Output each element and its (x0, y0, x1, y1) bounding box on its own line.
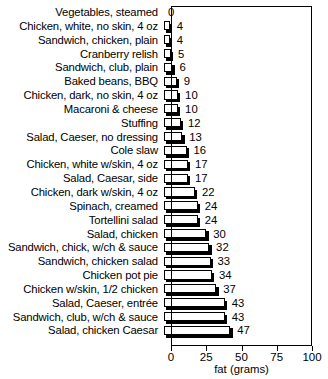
chart-row: Stuffing12 (0, 117, 328, 131)
chart-row: Salad, chicken Caesar47 (0, 324, 328, 338)
bar (164, 118, 181, 128)
bar-cell: 17 (164, 172, 328, 186)
bar-value-label: 5 (178, 48, 184, 62)
bar-cell: 12 (164, 117, 328, 131)
bar (164, 326, 230, 336)
bar-cell: 32 (164, 241, 328, 255)
bar-value-label: 9 (184, 75, 190, 89)
x-axis-tick (242, 346, 243, 351)
bar-cell: 5 (164, 48, 328, 62)
bar (164, 298, 225, 308)
bar-cell: 37 (164, 283, 328, 297)
bar-face (164, 160, 188, 169)
category-label: Salad, Caesar, side (0, 172, 164, 186)
bar (164, 77, 177, 87)
chart-row: Chicken, dark, no skin, 4 oz10 (0, 89, 328, 103)
bar-cell: 10 (164, 103, 328, 117)
category-label: Salad, Caeser, no dressing (0, 131, 164, 145)
bar (164, 63, 172, 73)
bar-value-label: 30 (213, 228, 226, 242)
bar-face (164, 90, 178, 99)
category-label: Sandwich, club, plain (0, 61, 164, 75)
bar-face (164, 257, 211, 266)
category-label: Cole slaw (0, 144, 164, 158)
category-label: Sandwich, club, w/ch & sauce (0, 311, 164, 325)
bar-face (164, 270, 212, 279)
chart-row: Cole slaw16 (0, 144, 328, 158)
bar-face (164, 35, 170, 44)
bar (164, 229, 206, 239)
chart-row: Baked beans, BBQ9 (0, 75, 328, 89)
category-label: Salad, chicken (0, 228, 164, 242)
x-axis-tick (312, 346, 313, 351)
bar-value-label: 10 (185, 103, 198, 117)
bar (164, 90, 178, 100)
bar-cell: 33 (164, 255, 328, 269)
bar-value-label: 24 (205, 214, 218, 228)
bar-cell: 24 (164, 214, 328, 228)
bar-value-label: 4 (177, 34, 183, 48)
bar-value-label: 4 (177, 20, 183, 34)
category-label: Stuffing (0, 117, 164, 131)
bar-value-label: 16 (194, 144, 207, 158)
bar-face (164, 229, 206, 238)
bar-value-label: 22 (202, 186, 215, 200)
chart-row: Chicken w/skin, 1/2 chicken37 (0, 283, 328, 297)
bar-value-label: 10 (185, 89, 198, 103)
category-label: Tortellini salad (0, 214, 164, 228)
bar (164, 243, 209, 253)
category-label: Salad, chicken Caesar (0, 324, 164, 338)
bar (164, 174, 188, 184)
bar (164, 21, 170, 31)
bar-cell: 34 (164, 269, 328, 283)
chart-row: Macaroni & cheese10 (0, 103, 328, 117)
bar-cell: 43 (164, 297, 328, 311)
bar-cell: 47 (164, 324, 328, 338)
category-label: Sandwich, chicken salad (0, 255, 164, 269)
bar-cell: 13 (164, 131, 328, 145)
chart-row: Spinach, creamed24 (0, 200, 328, 214)
bar (164, 132, 182, 142)
bar (164, 187, 195, 197)
category-label: Chicken, dark, no skin, 4 oz (0, 89, 164, 103)
bar-cell: 30 (164, 228, 328, 242)
chart-row: Vegetables, steamed0 (0, 6, 328, 20)
bar (164, 35, 170, 45)
bar-cell: 4 (164, 20, 328, 34)
bar-value-label: 33 (218, 255, 231, 269)
category-label: Sandwich, chick, w/ch & sauce (0, 241, 164, 255)
chart-row: Chicken pot pie34 (0, 269, 328, 283)
bar-face (164, 49, 171, 58)
bar-face (164, 312, 225, 321)
bar-cell: 22 (164, 186, 328, 200)
chart-row: Chicken, white, no skin, 4 oz4 (0, 20, 328, 34)
category-label: Macaroni & cheese (0, 103, 164, 117)
bar-value-label: 12 (188, 117, 201, 131)
chart-row: Cranberry relish5 (0, 48, 328, 62)
x-axis-tick (171, 346, 172, 351)
fat-grams-bar-chart: Vegetables, steamed0Chicken, white, no s… (0, 0, 328, 379)
bar (164, 201, 198, 211)
bar-value-label: 13 (189, 131, 202, 145)
bar (164, 49, 171, 59)
bar-cell: 9 (164, 75, 328, 89)
bar-cell: 10 (164, 89, 328, 103)
chart-row: Chicken, dark w/skin, 4 oz22 (0, 186, 328, 200)
chart-row: Salad, chicken30 (0, 228, 328, 242)
x-axis-title: fat (grams) (171, 363, 312, 375)
chart-row: Sandwich, club, plain6 (0, 61, 328, 75)
bar-face (164, 104, 178, 113)
bar (164, 312, 225, 322)
bar (164, 215, 198, 225)
bar-face (164, 77, 177, 86)
category-label: Spinach, creamed (0, 200, 164, 214)
category-label: Salad, Caeser, entrée (0, 297, 164, 311)
bar-face (164, 284, 216, 293)
chart-row: Sandwich, chicken salad33 (0, 255, 328, 269)
bar-value-label: 32 (216, 241, 229, 255)
bar-value-label: 24 (205, 200, 218, 214)
chart-row: Sandwich, chick, w/ch & sauce32 (0, 241, 328, 255)
chart-row: Salad, Caeser, no dressing13 (0, 131, 328, 145)
chart-row: Sandwich, chicken, plain4 (0, 34, 328, 48)
bar-face (164, 63, 172, 72)
